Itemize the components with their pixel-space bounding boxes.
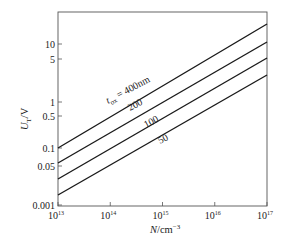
chart: 10510.50.10.050.001 10131014101510161017… [0,0,283,249]
y-tick-label: 5 [50,54,55,65]
x-tick-label: 1017 [257,210,273,221]
y-tick-label: 0.5 [43,111,56,122]
x-tick-label: 1016 [205,210,221,221]
series-line [58,24,267,148]
series-lines [58,24,267,195]
x-axis-label: N/cm−3 [149,223,181,235]
y-axis-label: UT/V [19,107,33,130]
series-line [58,58,267,179]
y-tick-label: 1 [50,97,55,108]
curve-label-100: 100 [142,113,160,130]
x-tick-label: 1015 [153,210,169,221]
x-axis: 10131014101510161017 [48,202,273,221]
y-tick-label: 0.1 [43,143,56,154]
x-tick-label: 1013 [48,210,64,221]
y-tick-label: 10 [45,39,55,50]
x-tick-label: 1014 [100,210,116,221]
curve-label-50: 50 [156,131,170,145]
y-tick-label: 0.05 [38,161,56,172]
y-tick-label: 0.001 [33,200,56,211]
